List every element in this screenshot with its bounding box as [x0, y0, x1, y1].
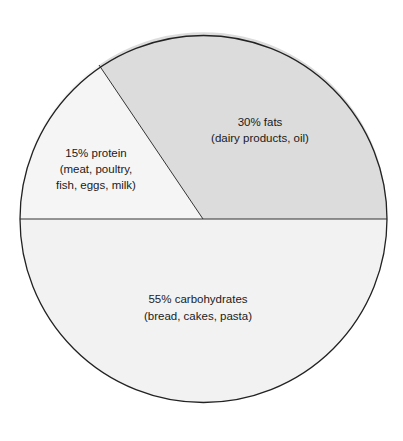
label-protein-title: 15% protein	[65, 147, 126, 159]
label-carbs-title: 55% carbohydrates	[148, 293, 247, 305]
label-fats-detail: (dairy products, oil)	[211, 132, 309, 144]
label-carbs-detail: (bread, cakes, pasta)	[144, 310, 252, 322]
label-protein-detail-1: (meat, poultry,	[60, 163, 133, 175]
label-fats-title: 30% fats	[238, 116, 283, 128]
label-protein-detail-2: fish, eggs, milk)	[56, 179, 136, 191]
pie-chart: 15% protein (meat, poultry, fish, eggs, …	[0, 0, 403, 441]
